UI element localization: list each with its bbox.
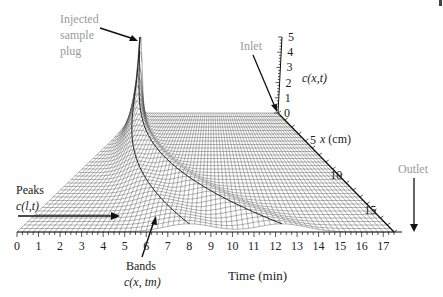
time-tick-label: 15 (334, 239, 346, 253)
scrollbar-mark (439, 0, 442, 6)
injected-label-line1: Injected (60, 12, 99, 26)
inlet-arrow (253, 55, 275, 107)
c-tick-label: 0 (284, 106, 290, 120)
x-axis-tick (326, 160, 329, 162)
injected-label-line2: sample (60, 28, 94, 42)
mesh-line-x (136, 60, 281, 116)
time-tick-label: 14 (313, 239, 325, 253)
chromatography-surface-chart: 0123456789101112131415161751015012345 Ti… (0, 0, 443, 297)
x-tick-label: 5 (310, 133, 316, 147)
outlet-label: Outlet (398, 162, 429, 176)
c-tick-label: 2 (286, 76, 292, 90)
time-tick-label: 11 (248, 239, 260, 253)
x-axis-tick (346, 181, 349, 183)
mesh-line-t (92, 113, 167, 232)
inlet-arrowhead (271, 104, 277, 112)
time-axis-label: Time (min) (228, 268, 287, 283)
mesh-line-t (130, 113, 181, 232)
c-tick-label: 5 (288, 30, 294, 44)
x-axis-tick (387, 223, 390, 225)
peaks-label-line2: c(l,t) (16, 199, 39, 213)
bands-arrowhead (151, 216, 157, 225)
time-tick-label: 10 (226, 239, 238, 253)
time-tick-label: 8 (186, 239, 192, 253)
inlet-label: Inlet (240, 39, 263, 53)
x-axis-tick (380, 216, 383, 218)
x-axis-tick (305, 139, 308, 141)
x-axis-label: x (cm) (319, 132, 351, 146)
peaks-label-line1: Peaks (16, 183, 44, 197)
x-axis-tick (319, 153, 322, 155)
time-tick-label: 12 (270, 239, 282, 253)
time-tick-label: 17 (377, 239, 389, 253)
c-tick-label: 4 (287, 45, 293, 59)
mesh-line-t (125, 113, 180, 232)
injected-arrow (100, 28, 134, 39)
bands-label-line2: c(x, tm) (124, 275, 161, 289)
time-tick-label: 5 (122, 239, 128, 253)
injected-label-line3: plug (60, 44, 81, 58)
time-tick-label: 1 (36, 239, 42, 253)
time-tick-label: 16 (356, 239, 368, 253)
mesh-line-t (22, 52, 142, 232)
mesh-line-t (241, 113, 292, 225)
time-tick-label: 0 (14, 239, 20, 253)
outlet-arrowhead (410, 224, 418, 232)
c-axis-label: c(x,t) (302, 71, 327, 85)
time-tick-label: 4 (100, 239, 106, 253)
x-tick-label: 10 (330, 168, 342, 182)
mesh-line-t (258, 113, 340, 232)
c-axis-line (278, 37, 282, 113)
c-tick-label: 3 (286, 60, 292, 74)
time-tick-label: 9 (208, 239, 214, 253)
time-tick-label: 2 (57, 239, 63, 253)
c-tick-label: 1 (285, 91, 291, 105)
time-tick-label: 13 (291, 239, 303, 253)
time-tick-label: 3 (79, 239, 85, 253)
x-axis-tick (360, 195, 363, 197)
x-tick-label: 15 (364, 203, 376, 217)
x-axis-tick (353, 188, 356, 190)
time-tick-label: 7 (165, 239, 171, 253)
mesh-line-x (129, 85, 288, 123)
x-axis-tick (292, 125, 295, 127)
bands-label-line1: Bands (126, 259, 156, 273)
x-axis-tick (298, 132, 301, 134)
